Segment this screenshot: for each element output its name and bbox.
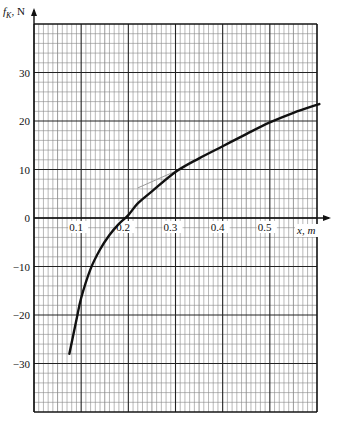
- axes: [31, 8, 331, 412]
- y-tick-label: 20: [19, 115, 31, 127]
- x-axis-label: x, m: [296, 224, 315, 236]
- y-tick-label: −20: [13, 309, 31, 321]
- y-tick-label: −30: [13, 358, 31, 370]
- y-axis-label: fK, N: [3, 5, 25, 20]
- y-tick-label: 0: [25, 212, 31, 224]
- x-tick-label: 0.4: [211, 221, 225, 233]
- y-axis-arrow-icon: [31, 8, 37, 16]
- x-tick-label: 0.3: [164, 221, 178, 233]
- x-axis-arrow-icon: [323, 215, 331, 221]
- chart: 0.10.20.30.40.5 3020100−10−20−30 fK, N x…: [0, 0, 337, 421]
- y-tick-label: −10: [13, 261, 31, 273]
- x-tick-label: 0.1: [69, 221, 83, 233]
- x-tick-label: 0.5: [258, 221, 272, 233]
- y-tick-label: 30: [19, 67, 31, 79]
- x-tick-labels: 0.10.20.30.40.5: [68, 221, 277, 233]
- y-tick-labels: 3020100−10−20−30: [13, 67, 31, 370]
- y-tick-label: 10: [19, 164, 31, 176]
